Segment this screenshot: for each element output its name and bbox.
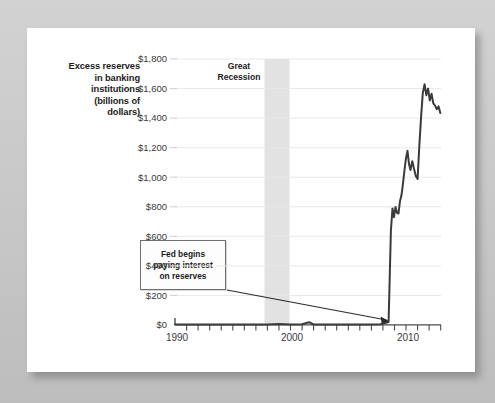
y-tick-label-0: $0 bbox=[156, 319, 167, 330]
y-tick-label-200: $200 bbox=[146, 290, 167, 301]
data-series-excess-reserves bbox=[175, 84, 440, 324]
x-axis-tick-labels: 1990 2000 2010 bbox=[166, 332, 420, 343]
y-tick-label-1000: $1,000 bbox=[138, 172, 167, 183]
y-axis-tick-marks bbox=[170, 59, 177, 295]
chart-plot: $1,800 $1,600 $1,400 $1,200 $1,000 $800 … bbox=[27, 28, 475, 372]
y-axis-tick-labels: $1,800 $1,600 $1,400 $1,200 $1,000 $800 … bbox=[138, 53, 167, 330]
x-axis-tick-marks bbox=[187, 325, 441, 331]
y-tick-label-800: $800 bbox=[146, 201, 167, 212]
y-tick-label-1400: $1,400 bbox=[138, 112, 167, 123]
y-tick-label-600: $600 bbox=[146, 231, 167, 242]
y-tick-label-400: $400 bbox=[146, 260, 167, 271]
y-tick-label-1800: $1,800 bbox=[138, 53, 167, 64]
x-tick-label-2010: 2010 bbox=[397, 332, 420, 343]
figure-card: Excess reserves in banking institutions … bbox=[27, 28, 475, 372]
y-tick-label-1600: $1,600 bbox=[138, 83, 167, 94]
x-tick-label-1990: 1990 bbox=[166, 332, 189, 343]
gridlines bbox=[175, 59, 441, 295]
recession-shaded-band bbox=[265, 59, 290, 325]
y-tick-label-1200: $1,200 bbox=[138, 142, 167, 153]
x-tick-label-2000: 2000 bbox=[281, 332, 304, 343]
